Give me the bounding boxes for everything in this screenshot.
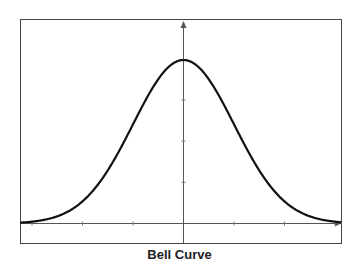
bell-curve-chart — [0, 0, 359, 280]
plot-frame — [21, 20, 342, 244]
chart-caption: Bell Curve — [0, 247, 359, 262]
